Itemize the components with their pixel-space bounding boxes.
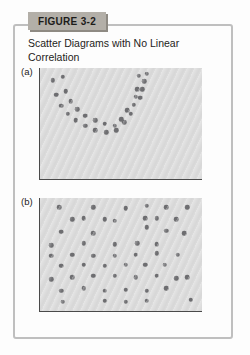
scatter-dot <box>112 218 117 223</box>
scatter-dot <box>83 123 88 128</box>
scatter-dot <box>185 275 190 280</box>
scatter-dot <box>132 102 137 107</box>
scatter-dot <box>143 262 148 267</box>
scatter-dot <box>81 286 86 291</box>
scatter-dot <box>59 230 64 235</box>
scatter-dot <box>69 99 74 104</box>
scatter-dot <box>103 264 108 269</box>
scatter-dot <box>81 262 86 267</box>
scatter-dot <box>154 242 159 247</box>
panel-a-label: (a) <box>21 66 33 77</box>
scatter-dot <box>140 87 145 92</box>
figure-title: Scatter Diagrams with No Linear Correlat… <box>28 37 210 64</box>
scatter-dot <box>185 205 190 210</box>
scatter-dot <box>59 264 64 269</box>
scatter-dot <box>54 92 59 97</box>
scatter-dot <box>112 242 117 247</box>
scatter-dot <box>112 253 117 258</box>
scatter-dot <box>175 252 180 257</box>
page: { "figure": { "label": "FIGURE 3-2", "ti… <box>0 0 250 355</box>
scatter-dot <box>49 243 54 248</box>
scatter-dot <box>145 204 150 209</box>
scatter-dot <box>145 288 150 293</box>
scatter-dot <box>91 231 96 236</box>
scatter-dot <box>81 241 86 246</box>
scatter-dot <box>154 216 159 221</box>
scatter-dot <box>125 108 130 113</box>
scatter-dot <box>124 300 129 305</box>
scatter-dot <box>60 300 65 305</box>
scatter-dot <box>119 117 124 122</box>
scatter-dot <box>103 217 108 222</box>
scatter-dot <box>81 216 86 221</box>
scatter-dot <box>112 123 117 128</box>
scatter-dot <box>162 262 167 267</box>
scatter-dot <box>143 216 148 221</box>
scatter-dot <box>133 95 138 100</box>
scatter-plot-a <box>39 68 202 180</box>
scatter-dot <box>70 217 75 222</box>
scatter-dot <box>65 111 70 116</box>
scatter-dot <box>174 217 179 222</box>
scatter-dot <box>83 113 88 118</box>
scatter-dot <box>93 128 98 133</box>
panel-b-label: (b) <box>21 196 33 207</box>
scatter-dot <box>164 205 169 210</box>
scatter-dot <box>174 276 179 281</box>
figure-label-text: FIGURE 3-2 <box>38 16 96 27</box>
scatter-dot <box>51 78 56 83</box>
scatter-dot <box>60 75 65 80</box>
scatter-dot <box>70 275 75 280</box>
scatter-plot-b <box>39 198 202 312</box>
scatter-dot <box>145 225 150 230</box>
scatter-dot <box>154 251 159 256</box>
scatter-dot <box>49 253 54 258</box>
scatter-dot <box>124 287 129 292</box>
scatter-dot <box>103 288 108 293</box>
scatter-dot <box>164 286 169 291</box>
scatter-dot <box>124 206 129 211</box>
scatter-dot <box>135 241 140 246</box>
scatter-dot <box>59 288 64 293</box>
scatter-dot <box>104 130 109 135</box>
scatter-dot <box>164 229 169 234</box>
scatter-dot <box>91 274 96 279</box>
scatter-dot <box>57 205 62 210</box>
scatter-dot <box>103 299 108 304</box>
scatter-dot <box>154 274 159 279</box>
scatter-dot <box>59 103 64 108</box>
scatter-dot <box>75 107 80 112</box>
scatter-dot <box>133 275 138 280</box>
scatter-dot <box>114 128 119 133</box>
figure-label-box: FIGURE 3-2 <box>28 12 106 30</box>
scatter-dot <box>124 262 129 267</box>
scatter-dot <box>135 87 140 92</box>
scatter-dot <box>91 253 96 258</box>
scatter-dot <box>138 96 143 101</box>
scatter-dot <box>64 89 69 94</box>
scatter-dot <box>70 252 75 257</box>
scatter-dot <box>145 71 150 76</box>
scatter-dot <box>145 299 150 304</box>
scatter-dot <box>103 121 108 126</box>
scatter-dot <box>91 205 96 210</box>
scatter-dot <box>188 297 193 302</box>
scatter-dot <box>73 118 78 123</box>
scatter-dot <box>137 74 142 79</box>
scatter-dot <box>142 79 147 84</box>
scatter-dot <box>49 277 54 282</box>
scatter-dot <box>182 231 187 236</box>
scatter-dot <box>133 252 138 257</box>
scatter-dot <box>93 118 98 123</box>
scatter-dot <box>112 274 117 279</box>
